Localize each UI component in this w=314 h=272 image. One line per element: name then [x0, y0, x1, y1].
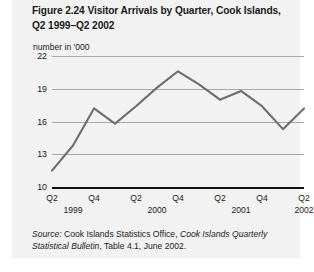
- x-axis-tick-label: Q4: [165, 193, 191, 203]
- x-axis-tick-label: Q2: [207, 193, 233, 203]
- series-polyline: [52, 71, 304, 170]
- source-note: Source: Cook Islands Statistics Office, …: [32, 228, 300, 253]
- source-label: Source:: [32, 229, 62, 239]
- source-org: Cook Islands Statistics Office,: [62, 229, 180, 239]
- source-reference: , Table 4.1, June 2002.: [99, 241, 186, 251]
- x-axis-tick-label: Q4: [249, 193, 275, 203]
- line-series: [32, 56, 304, 191]
- x-axis-tick-label: Q2: [123, 193, 149, 203]
- figure-title-line1: Figure 2.24 Visitor Arrivals by Quarter,…: [32, 5, 281, 16]
- x-axis-tick-label: Q4: [81, 193, 107, 203]
- figure-title: Figure 2.24 Visitor Arrivals by Quarter,…: [32, 4, 304, 33]
- x-axis-tick-label: Q2: [291, 193, 313, 203]
- x-axis-year-label: 2002: [287, 205, 313, 215]
- x-axis-year-label: 2001: [224, 205, 258, 215]
- figure-panel: Figure 2.24 Visitor Arrivals by Quarter,…: [12, 0, 300, 258]
- x-axis-year-label: 2000: [140, 205, 174, 215]
- figure-title-line2: Q2 1999–Q2 2002: [32, 20, 114, 31]
- x-axis-tick-label: Q2: [39, 193, 65, 203]
- x-axis-year-label: 1999: [56, 205, 90, 215]
- chart-plot-area: 1013161922: [32, 56, 304, 191]
